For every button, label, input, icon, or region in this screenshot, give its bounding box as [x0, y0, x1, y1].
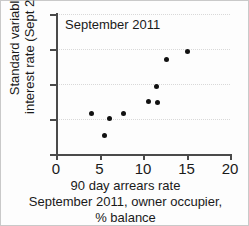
x-tick-label-5: 5	[80, 161, 120, 176]
y-tick-4	[50, 119, 56, 121]
chart-title: September 2011	[65, 17, 160, 32]
gridline-y-4	[56, 119, 230, 120]
x-axis-label-line-3: % balance	[1, 210, 249, 226]
y-axis-label: Standard variable interest rate (Sept 20…	[7, 0, 38, 120]
y-tick-5	[50, 84, 56, 86]
y-axis-line	[56, 13, 58, 155]
x-tick-label-20: 20	[210, 161, 249, 176]
data-point	[164, 57, 169, 62]
y-tick-6	[50, 49, 56, 51]
data-point	[146, 99, 151, 104]
data-point	[107, 116, 112, 121]
y-axis-label-line-2: interest rate (Sept 2011)	[22, 0, 37, 120]
plot-area	[56, 14, 230, 154]
gridline-y-7	[56, 14, 230, 15]
x-axis-label: 90 day arrears rate September 2011, owne…	[1, 178, 249, 226]
data-point	[155, 100, 160, 105]
gridline-y-6	[56, 49, 230, 50]
data-point	[154, 84, 159, 89]
y-axis-label-line-1: Standard variable	[7, 0, 22, 120]
data-point	[185, 49, 190, 54]
x-tick-label-15: 15	[167, 161, 207, 176]
x-axis-label-line-1: 90 day arrears rate	[1, 178, 249, 194]
x-axis-label-line-2: September 2011, owner occupier,	[1, 194, 249, 210]
data-point	[89, 111, 94, 116]
x-tick-label-0: 0	[36, 161, 76, 176]
y-tick-7	[50, 14, 56, 16]
scatter-chart-figure: 34567 05101520 September 2011 Standard v…	[0, 0, 249, 226]
x-tick-label-10: 10	[123, 161, 163, 176]
gridline-y-5	[56, 84, 230, 85]
